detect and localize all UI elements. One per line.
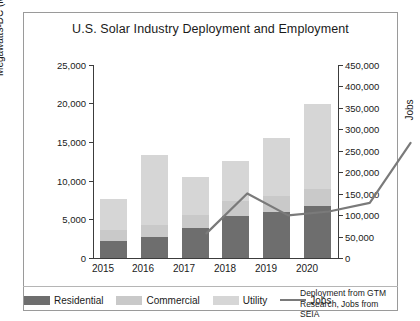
- y-tick-right-7: [339, 108, 343, 109]
- legend-swatch-utility-icon: [213, 296, 239, 305]
- y-tick-label-left-2: 15,000: [57, 138, 86, 148]
- y-tick-label-left-0: 25,000: [57, 61, 86, 71]
- bar-segment-utility-2016: [141, 155, 168, 224]
- y-tick-label-left-4: 5,000: [62, 215, 86, 225]
- legend-item-utility: Utility: [213, 295, 267, 306]
- bar-segment-commercial-2016: [141, 225, 168, 237]
- bar-2016: [141, 155, 168, 258]
- y-tick-right-8: [339, 86, 343, 87]
- chart-title: U.S. Solar Industry Deployment and Emplo…: [23, 22, 398, 36]
- y-axis-left-title: Megawatts-DC (MWdc): [0, 0, 5, 104]
- y-tick-label-right-8: 400,000: [345, 82, 379, 92]
- legend-item-residential: Residential: [24, 295, 103, 306]
- bar-segment-residential-2016: [141, 237, 168, 258]
- legend-item-commercial: Commercial: [116, 295, 199, 306]
- legend-swatch-commercial-icon: [116, 296, 142, 305]
- bar-2015: [100, 199, 127, 258]
- bar-segment-commercial-2015: [100, 230, 127, 241]
- legend-divider: [23, 286, 398, 287]
- y-tick-right-9: [339, 65, 343, 66]
- legend-label-residential: Residential: [54, 295, 103, 306]
- y-tick-label-left-3: 10,000: [57, 177, 86, 187]
- plot-area: [93, 65, 338, 258]
- legend-label-commercial: Commercial: [146, 295, 199, 306]
- y-tick-left-5: [89, 258, 93, 259]
- jobs-line-path: [206, 143, 410, 233]
- bar-segment-residential-2015: [100, 241, 127, 258]
- y-tick-label-right-7: 350,000: [345, 104, 379, 114]
- bar-segment-utility-2015: [100, 199, 127, 230]
- legend-label-utility: Utility: [243, 295, 267, 306]
- x-tick-label-2020: 2020: [277, 263, 337, 274]
- source-annotation: Deployment from GTM Research, Jobs from …: [300, 288, 398, 320]
- y-tick-label-left-1: 20,000: [57, 99, 86, 109]
- y-tick-label-right-9: 450,000: [345, 61, 379, 71]
- chart-figure: U.S. Solar Industry Deployment and Emplo…: [0, 0, 420, 321]
- legend-swatch-residential-icon: [24, 296, 50, 305]
